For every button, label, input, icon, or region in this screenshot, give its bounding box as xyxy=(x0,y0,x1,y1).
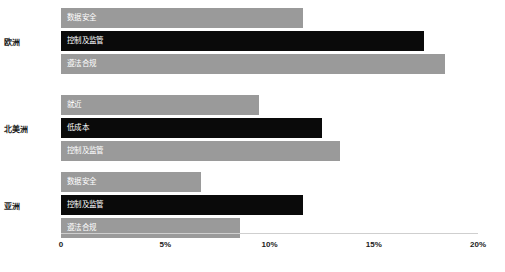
category-label: 欧洲 xyxy=(4,36,56,47)
bar-row: 控制及监管 xyxy=(61,141,478,161)
bar[interactable]: 遵法合规 xyxy=(61,54,445,74)
bar[interactable]: 低成本 xyxy=(61,118,322,138)
bar-label: 就近 xyxy=(61,101,82,109)
bar-label: 控制及监管 xyxy=(61,201,104,209)
bar-chart: 欧洲北美洲亚洲 数据安全控制及监管遵法合规就近低成本控制及监管数据安全控制及监管… xyxy=(0,0,505,272)
bar-label: 遵法合规 xyxy=(61,60,96,68)
bar-row: 低成本 xyxy=(61,118,478,138)
bar[interactable]: 数据安全 xyxy=(61,172,201,192)
bar[interactable]: 遵法合规 xyxy=(61,218,240,238)
bar-row: 数据安全 xyxy=(61,172,478,192)
x-axis-tick: 10% xyxy=(261,240,277,249)
plot-area: 数据安全控制及监管遵法合规就近低成本控制及监管数据安全控制及监管遵法合规 xyxy=(61,0,478,233)
bar[interactable]: 控制及监管 xyxy=(61,141,340,161)
bar-label: 控制及监管 xyxy=(61,147,104,155)
bar-row: 控制及监管 xyxy=(61,195,478,215)
bar-row: 控制及监管 xyxy=(61,31,478,51)
bar-label: 数据安全 xyxy=(61,14,96,22)
bar[interactable]: 数据安全 xyxy=(61,8,303,28)
bar-group: 数据安全控制及监管遵法合规 xyxy=(61,8,478,74)
bar[interactable]: 就近 xyxy=(61,95,259,115)
bar-label: 低成本 xyxy=(61,124,89,132)
x-axis-tick: 20% xyxy=(470,240,486,249)
x-axis-line xyxy=(61,233,478,234)
bar[interactable]: 控制及监管 xyxy=(61,31,424,51)
bar-row: 遵法合规 xyxy=(61,54,478,74)
bar-group: 数据安全控制及监管遵法合规 xyxy=(61,172,478,238)
category-label: 亚洲 xyxy=(4,200,56,211)
bar[interactable]: 控制及监管 xyxy=(61,195,303,215)
category-axis: 欧洲北美洲亚洲 xyxy=(0,0,56,233)
x-axis-tick: 15% xyxy=(366,240,382,249)
bar-row: 数据安全 xyxy=(61,8,478,28)
x-axis-tick: 5% xyxy=(159,240,171,249)
bar-label: 遵法合规 xyxy=(61,224,96,232)
bar-label: 控制及监管 xyxy=(61,37,104,45)
x-axis-tick: 0 xyxy=(59,240,63,249)
bar-row: 遵法合规 xyxy=(61,218,478,238)
bar-row: 就近 xyxy=(61,95,478,115)
bar-label: 数据安全 xyxy=(61,178,96,186)
bar-group: 就近低成本控制及监管 xyxy=(61,95,478,161)
category-label: 北美洲 xyxy=(4,123,56,134)
